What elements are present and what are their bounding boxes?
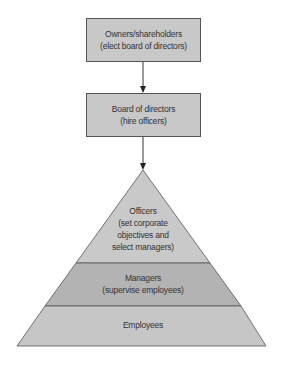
managers-label: Managers (supervise employees) — [83, 272, 203, 296]
diagram-graphics — [0, 0, 281, 367]
arrow-owners-to-board — [140, 62, 146, 93]
employees-label: Employees — [93, 319, 193, 331]
officers-label: Officers (set corporate objectives and s… — [93, 205, 193, 253]
arrow-board-to-officers — [140, 137, 146, 170]
